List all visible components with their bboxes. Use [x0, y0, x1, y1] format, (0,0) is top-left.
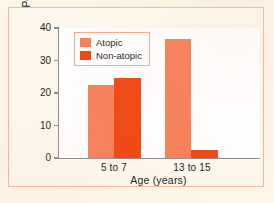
bar-non-atopic-13-to-15 [191, 150, 218, 158]
x-category-label-0: 5 to 7 [69, 162, 159, 173]
bar-atopic-5-to-7 [88, 85, 114, 158]
legend-label-non-atopic: Non-atopic [96, 51, 142, 61]
y-axis-title-wrapper: Percentage [23, 28, 37, 158]
chart-legend: Atopic Non-atopic [74, 32, 150, 66]
bar-non-atopic-5-to-7 [114, 78, 141, 158]
legend-swatch-atopic [80, 38, 91, 47]
y-tick-label-40: 40 [40, 23, 51, 33]
legend-swatch-non-atopic [80, 51, 91, 60]
legend-entry-atopic: Atopic [80, 37, 142, 48]
y-axis-title: Percentage [21, 0, 32, 46]
x-category-label-1: 13 to 15 [147, 162, 237, 173]
plot-area: 0 10 20 30 40 [58, 28, 260, 159]
figure-frame: Percentage 0 10 20 30 40 [8, 7, 264, 187]
y-tick-label-20: 20 [40, 88, 51, 98]
legend-entry-non-atopic: Non-atopic [80, 50, 142, 61]
figure-root: Percentage 0 10 20 30 40 [0, 0, 274, 203]
y-tick-label-10: 10 [40, 121, 51, 131]
y-tick-label-30: 30 [40, 56, 51, 66]
x-axis-title: Age (years) [58, 174, 259, 186]
legend-label-atopic: Atopic [96, 38, 122, 48]
y-tick-label-0: 0 [45, 153, 51, 163]
bar-atopic-13-to-15 [165, 39, 191, 158]
